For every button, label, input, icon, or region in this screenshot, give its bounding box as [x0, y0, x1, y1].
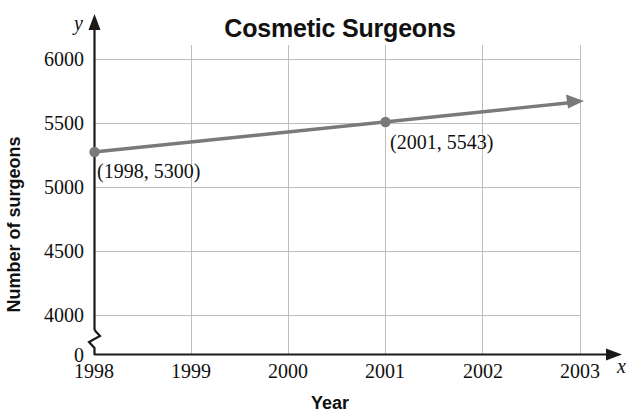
x-axis-title: Year — [250, 393, 410, 414]
chart-figure: Cosmetic Surgeons Year Number of surgeon… — [0, 0, 634, 420]
annotation-point-2001: (2001, 5543) — [390, 131, 493, 154]
y-tick-6000: 6000 — [24, 48, 84, 71]
chart-title: Cosmetic Surgeons — [150, 14, 530, 43]
x-tick-1999: 1999 — [151, 360, 231, 383]
data-point-2001[interactable] — [380, 117, 390, 127]
y-tick-4000: 4000 — [24, 304, 84, 327]
axis-break-icon — [89, 330, 100, 355]
y-axis-arrow-icon — [89, 14, 101, 30]
chart-plot-area — [0, 0, 634, 420]
x-tick-1998: 1998 — [54, 360, 134, 383]
x-tick-2001: 2001 — [345, 360, 425, 383]
annotation-point-1998: (1998, 5300) — [97, 160, 200, 183]
y-tick-5500: 5500 — [24, 112, 84, 135]
y-axis-title: Number of surgeons — [4, 125, 25, 325]
y-tick-5000: 5000 — [24, 176, 84, 199]
x-tick-2000: 2000 — [248, 360, 328, 383]
grid-horizontal — [94, 60, 580, 316]
x-axis — [94, 349, 622, 361]
y-axis-variable-letter: y — [74, 12, 83, 35]
y-tick-4500: 4500 — [24, 240, 84, 263]
grid-vertical — [192, 45, 581, 355]
x-tick-2002: 2002 — [443, 360, 523, 383]
data-point-1998[interactable] — [89, 147, 99, 157]
series-arrow-icon — [566, 95, 584, 109]
x-tick-2003: 2003 — [540, 360, 620, 383]
